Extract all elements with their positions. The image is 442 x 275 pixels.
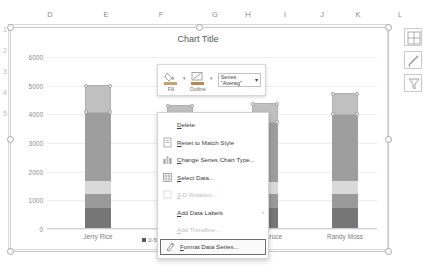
- column-header-l[interactable]: L: [390, 10, 410, 19]
- context-menu-item-add-trendline: Add Trendline...: [158, 221, 268, 239]
- fill-label: Fill: [168, 86, 174, 92]
- gridline: [47, 57, 377, 58]
- context-menu-item-label: Reset to Match Style: [177, 139, 268, 146]
- resize-handle-bottom-right[interactable]: [385, 248, 392, 255]
- bar-segment-0-500[interactable]: [85, 208, 111, 228]
- resize-handle-top-center[interactable]: [196, 24, 203, 31]
- row-header-3[interactable]: 3: [3, 68, 7, 89]
- context-menu-item-format-data-series[interactable]: Format Data Series...: [160, 239, 266, 255]
- column-header-k[interactable]: K: [348, 10, 368, 19]
- series-selection-handle[interactable]: [166, 104, 170, 108]
- series-selection-handle[interactable]: [84, 84, 88, 88]
- series-selection-handle[interactable]: [108, 84, 112, 88]
- bar-stack[interactable]: [85, 85, 111, 228]
- y-axis-tick-label: 5000: [29, 82, 43, 89]
- bar-segment-average[interactable]: [85, 113, 111, 180]
- context-menu-item-label: 3-D Rotation...: [177, 191, 268, 198]
- series-selection-handle[interactable]: [355, 92, 359, 96]
- row-header-4[interactable]: 4: [3, 89, 7, 110]
- context-menu-item-change-series-chart-type[interactable]: Change Series Chart Type...: [158, 151, 268, 169]
- bar-segment-best[interactable]: [85, 181, 111, 194]
- series-selection-handle[interactable]: [331, 92, 335, 96]
- fill-dropdown-caret[interactable]: ▾: [183, 75, 186, 81]
- outline-button[interactable]: Outline: [189, 68, 207, 92]
- excel-chart-screen: DEFGHIJKL 12345 Chart Title 600050004000…: [0, 0, 442, 275]
- series-selector-dropdown[interactable]: Series "Averag" ▾: [218, 73, 261, 87]
- bar-segment-average[interactable]: [332, 115, 358, 181]
- y-axis-tick-label: 0: [39, 226, 43, 233]
- none: [162, 119, 173, 130]
- chart-elements-button[interactable]: [404, 28, 422, 46]
- bar-segment-500[interactable]: [85, 194, 111, 208]
- context-menu-item-label: Add Data Labels: [177, 209, 262, 216]
- series-selection-handle[interactable]: [275, 120, 279, 124]
- context-menu-item-label: Add Trendline...: [177, 226, 268, 233]
- series-selection-handle[interactable]: [275, 102, 279, 106]
- column-header-j[interactable]: J: [312, 10, 332, 19]
- reset-icon: [162, 137, 173, 148]
- series-selector-value: Series "Averag": [221, 74, 255, 86]
- resize-handle-bottom-left[interactable]: [7, 248, 14, 255]
- bar-segment-top[interactable]: [85, 85, 111, 114]
- legend-swatch: [142, 238, 146, 242]
- column-header-g[interactable]: G: [205, 10, 225, 19]
- chart-styles-button[interactable]: [404, 51, 422, 69]
- outline-label: Outline: [190, 86, 206, 92]
- chart-title[interactable]: Chart Title: [9, 34, 387, 44]
- column-header-e[interactable]: E: [96, 10, 116, 19]
- row-header-2[interactable]: 2: [3, 47, 7, 68]
- y-axis-tick-label: 2000: [29, 168, 43, 175]
- resize-handle-top-left[interactable]: [7, 24, 14, 31]
- y-axis-tick-label: 1000: [29, 197, 43, 204]
- chart-side-buttons: [404, 28, 424, 97]
- context-menu-item-3-d-rotation: 3-D Rotation...: [158, 186, 268, 204]
- bar-stack[interactable]: [332, 93, 358, 228]
- y-axis-tick-label: 4000: [29, 111, 43, 118]
- y-axis-tick-label: 6000: [29, 54, 43, 61]
- context-menu-item-label: Format Data Series...: [180, 243, 265, 250]
- context-menu-item-delete[interactable]: Delete: [158, 116, 268, 134]
- select-data-icon: [162, 172, 173, 183]
- submenu-arrow-icon: ›: [262, 209, 264, 215]
- outline-pen-icon: [190, 68, 205, 82]
- row-numbers: 12345: [3, 26, 7, 131]
- format-icon: [165, 241, 176, 252]
- chart-filters-button[interactable]: [404, 74, 422, 92]
- rotation-icon: [162, 189, 173, 200]
- brush-icon: [405, 52, 423, 70]
- context-menu-item-label: Select Data...: [177, 174, 268, 181]
- series-selection-handle[interactable]: [331, 112, 335, 116]
- none: [162, 207, 173, 218]
- resize-handle-middle-right[interactable]: [385, 136, 392, 143]
- resize-handle-top-right[interactable]: [385, 24, 392, 31]
- column-header-d[interactable]: D: [40, 10, 60, 19]
- context-menu-item-reset-to-match-style[interactable]: Reset to Match Style: [158, 134, 268, 152]
- context-menu[interactable]: DeleteReset to Match StyleChange Series …: [157, 112, 269, 259]
- fill-button[interactable]: Fill: [162, 68, 180, 92]
- context-menu-item-select-data[interactable]: Select Data...: [158, 169, 268, 187]
- none: [162, 224, 173, 235]
- bar-segment-500[interactable]: [332, 194, 358, 208]
- context-menu-item-label: Change Series Chart Type...: [177, 156, 268, 163]
- fill-color-bar: [164, 82, 177, 85]
- series-selection-handle[interactable]: [251, 102, 255, 106]
- mini-toolbar[interactable]: Fill ▾ Outline ▾ Series "Averag" ▾: [157, 64, 266, 96]
- series-selection-handle[interactable]: [190, 104, 194, 108]
- bar-segment-0-500[interactable]: [332, 208, 358, 228]
- context-menu-item-add-data-labels[interactable]: Add Data Labels›: [158, 204, 268, 222]
- column-header-i[interactable]: I: [275, 10, 295, 19]
- plus-icon: [405, 29, 423, 47]
- outline-dropdown-caret[interactable]: ▾: [210, 75, 213, 81]
- column-header-h[interactable]: H: [238, 10, 258, 19]
- row-header-1[interactable]: 1: [3, 26, 7, 47]
- bar-segment-best[interactable]: [332, 181, 358, 194]
- series-selection-handle[interactable]: [355, 112, 359, 116]
- column-header-f[interactable]: F: [151, 10, 171, 19]
- context-menu-item-label: Delete: [177, 121, 268, 128]
- y-axis-tick-label: 3000: [29, 140, 43, 147]
- column-headers: DEFGHIJKL: [0, 10, 442, 22]
- row-header-5[interactable]: 5: [3, 110, 7, 131]
- chevron-down-icon: ▾: [255, 77, 258, 83]
- bar-segment-top[interactable]: [332, 93, 358, 115]
- resize-handle-middle-left[interactable]: [7, 136, 14, 143]
